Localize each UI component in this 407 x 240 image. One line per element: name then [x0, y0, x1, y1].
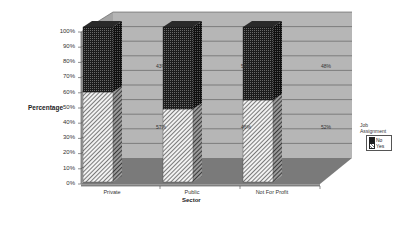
x-category-public: Public: [162, 189, 222, 195]
data-label-private-yes: 57%: [156, 124, 166, 130]
y-tick: 10%: [47, 165, 75, 171]
y-tick: 30%: [47, 134, 75, 140]
data-label-nfp-no: 48%: [321, 63, 331, 69]
legend-item-yes: Yes: [369, 143, 389, 149]
bar-public: [163, 21, 202, 182]
x-axis-title: Sector: [182, 197, 201, 203]
x-category-not-for-profit: Not For Profit: [242, 189, 302, 195]
hatch-swatch-icon: [369, 143, 375, 149]
y-tick: 100%: [47, 28, 75, 34]
legend-title: Job Assignment: [360, 122, 394, 134]
y-tick: 0%: [47, 180, 75, 186]
y-tick: 20%: [47, 149, 75, 155]
bar-private: [83, 21, 122, 182]
y-tick: 40%: [47, 119, 75, 125]
x-category-private: Private: [82, 189, 142, 195]
legend-box: No Yes: [366, 135, 392, 151]
data-label-public-no: 54%: [241, 63, 251, 69]
y-tick: 60%: [47, 89, 75, 95]
y-tick: 90%: [47, 43, 75, 49]
data-label-nfp-yes: 52%: [321, 124, 331, 130]
data-label-private-no: 43%: [156, 63, 166, 69]
data-label-public-yes: 46%: [241, 124, 251, 130]
legend: Job Assignment No Yes: [360, 122, 394, 151]
y-tick: 80%: [47, 58, 75, 64]
y-axis-title: Percentage: [28, 104, 63, 111]
bar-not-for-profit: [243, 21, 282, 182]
y-tick: 70%: [47, 73, 75, 79]
